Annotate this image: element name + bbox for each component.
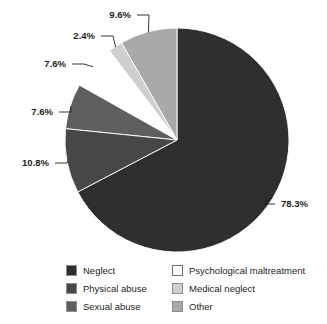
pie-chart-figure: 78.3%10.8%7.6%7.6%2.4%9.6% Neglect Psych… [0, 0, 327, 324]
legend-item-other[interactable]: Other [172, 297, 318, 315]
legend-item-medical-neglect[interactable]: Medical neglect [172, 279, 318, 297]
pie-value-label: 78.3% [281, 198, 308, 209]
legend-item-psychological-maltreatment[interactable]: Psychological maltreatment [172, 261, 318, 279]
pie-value-label: 7.6% [44, 58, 66, 69]
leader-line [72, 64, 93, 67]
legend-label-sexual-abuse: Sexual abuse [83, 301, 141, 312]
legend-label-medical-neglect: Medical neglect [189, 283, 255, 294]
legend-swatch-physical-abuse [66, 283, 77, 294]
legend-label-psychological-maltreatment: Psychological maltreatment [189, 265, 305, 276]
legend-item-physical-abuse[interactable]: Physical abuse [66, 279, 172, 297]
pie-value-label: 10.8% [22, 157, 49, 168]
legend-item-neglect[interactable]: Neglect [66, 261, 172, 279]
legend-swatch-medical-neglect [172, 283, 183, 294]
legend-label-physical-abuse: Physical abuse [83, 283, 147, 294]
legend-swatch-neglect [66, 265, 77, 276]
leader-line [137, 15, 149, 32]
leader-line [55, 161, 68, 163]
legend-label-other: Other [189, 301, 213, 312]
pie-value-label: 7.6% [31, 106, 53, 117]
legend-swatch-sexual-abuse [66, 301, 77, 312]
legend-item-sexual-abuse[interactable]: Sexual abuse [66, 297, 172, 315]
legend-label-neglect: Neglect [83, 265, 115, 276]
legend-swatch-other [172, 301, 183, 312]
leader-line [101, 36, 116, 47]
chart-legend: Neglect Psychological maltreatment Physi… [66, 261, 318, 315]
pie-value-label: 2.4% [73, 30, 95, 41]
legend-swatch-psychological-maltreatment [172, 265, 183, 276]
pie-value-label: 9.6% [109, 9, 131, 20]
pie-slices-group [65, 28, 289, 252]
